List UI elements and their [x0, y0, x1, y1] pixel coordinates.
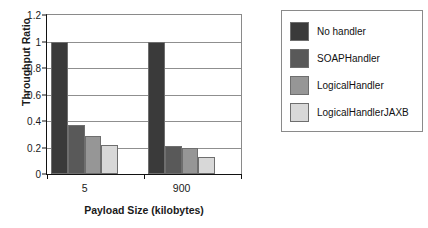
y-tick-label: 1: [35, 36, 41, 47]
y-tick-label: 0.4: [27, 116, 41, 127]
y-tick-label: 0: [35, 169, 41, 180]
bar: [51, 42, 68, 175]
x-tick-mark: [47, 174, 48, 179]
legend-swatch: [290, 103, 309, 122]
bar-group: 5: [47, 15, 144, 174]
legend-swatch: [290, 49, 309, 68]
x-tick-mark: [144, 174, 145, 179]
bar: [165, 146, 182, 174]
bar: [68, 125, 85, 174]
bar: [182, 148, 199, 175]
x-tick-label: 5: [82, 182, 88, 194]
legend-label: LogicalHandler: [317, 80, 384, 91]
y-tick-label: 0.8: [27, 63, 41, 74]
legend-label: LogicalHandlerJAXB: [317, 107, 409, 118]
bar-group: 900: [144, 15, 241, 174]
x-axis-title: Payload Size (kilobytes): [46, 204, 242, 216]
x-tick-label: 900: [173, 182, 191, 194]
x-tick-mark: [241, 174, 242, 179]
y-tick-label: 0.6: [27, 89, 41, 100]
bar: [198, 157, 215, 174]
legend-item: LogicalHandlerJAXB: [290, 99, 422, 126]
legend-item: LogicalHandler: [290, 72, 422, 99]
y-tick-label: 0.2: [27, 142, 41, 153]
legend-item: SOAPHandler: [290, 45, 422, 72]
legend-swatch: [290, 22, 309, 41]
chart-legend: No handlerSOAPHandlerLogicalHandlerLogic…: [281, 10, 423, 132]
legend-label: No handler: [317, 26, 366, 37]
bar: [85, 136, 102, 174]
bar: [148, 42, 165, 175]
plot-area: 00.20.40.60.811.2 5900: [46, 14, 242, 175]
y-tick-label: 1.2: [27, 10, 41, 21]
bar: [101, 145, 118, 174]
bar-groups: 5900: [47, 15, 241, 174]
bar-chart-figure: Throughput Ratio 00.20.40.60.811.2 5900 …: [0, 0, 428, 228]
legend-label: SOAPHandler: [317, 53, 380, 64]
legend-item: No handler: [290, 18, 422, 45]
legend-swatch: [290, 76, 309, 95]
